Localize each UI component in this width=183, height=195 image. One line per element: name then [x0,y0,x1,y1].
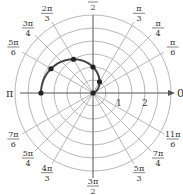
svg-text:2π: 2π [42,4,52,13]
svg-text:3: 3 [44,14,49,23]
svg-text:π: π [170,38,175,47]
svg-text:6: 6 [11,48,16,57]
curve-point [48,66,53,71]
curve-point [90,64,95,69]
svg-text:4: 4 [156,159,161,168]
svg-text:5π: 5π [134,164,144,173]
svg-text:3: 3 [44,174,49,183]
svg-text:4: 4 [25,29,30,38]
label-pi: π [6,87,13,100]
svg-text:5π: 5π [23,149,33,158]
curve-point [97,79,102,84]
svg-text:π: π [155,19,160,28]
svg-text:6: 6 [11,140,16,149]
radial-tick-1: 1 [116,98,122,108]
svg-text:7π: 7π [153,149,163,158]
label-three-half-pi: 3π 2 [87,177,99,195]
angle-label: 7π4 [152,149,164,168]
svg-text:π: π [136,4,141,13]
svg-text:4: 4 [156,29,161,38]
label-half-pi: 2 [88,2,98,12]
curve-point [71,57,76,62]
angle-label: 5π6 [7,38,19,57]
angle-label: π6 [167,38,179,57]
arrow-right-icon [168,90,175,96]
curve-point [38,90,43,95]
svg-text:5π: 5π [8,38,18,47]
angle-label: 5π4 [22,149,34,168]
angle-label: 3π4 [22,19,34,38]
svg-text:6: 6 [170,48,175,57]
curve-point [90,90,95,95]
label-zero: 0 [177,87,183,100]
svg-text:3: 3 [136,14,141,23]
svg-text:11π: 11π [165,130,180,139]
angle-label: 4π3 [41,164,53,183]
angle-label: 2π3 [41,4,53,23]
svg-text:7π: 7π [8,130,18,139]
svg-text:4: 4 [25,159,30,168]
svg-text:3: 3 [136,174,141,183]
polar-graph: 0 π 1 2 2 3π 2 π3π4π62π33π45π67π65π44π35… [0,0,183,195]
angle-label: 11π6 [165,130,180,149]
svg-text:2: 2 [90,3,95,12]
angle-label: π4 [152,19,164,38]
radial-tick-2: 2 [142,98,148,108]
svg-text:2: 2 [90,187,95,195]
angle-label: 7π6 [7,130,19,149]
svg-text:3π: 3π [23,19,33,28]
angle-label: 5π3 [133,164,145,183]
svg-text:4π: 4π [42,164,52,173]
svg-text:6: 6 [170,140,175,149]
angle-label: π3 [133,4,145,23]
svg-text:3π: 3π [88,177,98,186]
